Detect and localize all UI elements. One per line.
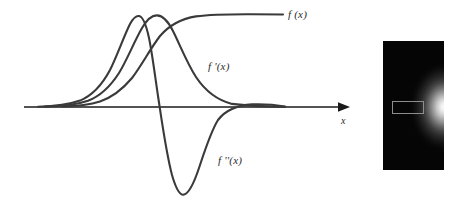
label-x-axis: x [341, 115, 346, 126]
curve-f-prime [45, 15, 285, 107]
figure-container: f (x) f '(x) f ''(x) x [0, 0, 465, 212]
roi-rectangle [392, 101, 424, 114]
label-f-of-x: f (x) [288, 8, 307, 20]
x-axis-arrowhead [338, 102, 350, 112]
label-f-prime-of-x: f '(x) [208, 60, 230, 72]
label-f-double-prime-of-x: f ''(x) [218, 154, 242, 166]
intensity-image-panel [383, 41, 444, 170]
